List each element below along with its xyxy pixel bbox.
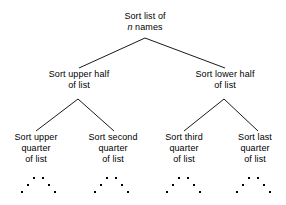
- ellipsis-dot: [121, 184, 123, 186]
- node-second-quarter-line3: of list: [76, 154, 150, 165]
- ellipsis-dot: [257, 177, 259, 179]
- ellipsis-dots-second-quarter: [91, 176, 135, 198]
- ellipsis-dots-last-quarter: [233, 176, 277, 198]
- ellipsis-dot: [178, 177, 180, 179]
- node-upper-half-line2: of list: [33, 80, 125, 91]
- ellipsis-dot: [199, 191, 201, 193]
- node-upper-quarter-line1: Sort upper: [1, 132, 71, 143]
- node-root-line2: n names: [105, 22, 185, 33]
- ellipsis-dot: [263, 184, 265, 186]
- node-third-quarter-line3: of list: [150, 154, 218, 165]
- node-second-quarter: Sort second quarter of list: [76, 132, 150, 165]
- edge-root-to-lower-half: [145, 38, 225, 68]
- ellipsis-dots-third-quarter: [163, 176, 207, 198]
- ellipsis-dot: [100, 184, 102, 186]
- ellipsis-dots-upper-quarter: [18, 176, 62, 198]
- node-third-quarter: Sort third quarter of list: [150, 132, 218, 165]
- node-last-quarter: Sort last quarter of list: [224, 132, 286, 165]
- node-root-line1: Sort list of: [105, 11, 185, 22]
- edge-lower-half-to-last-quarter: [224, 99, 258, 131]
- node-last-quarter-line1: Sort last: [224, 132, 286, 143]
- node-lower-half-line2: of list: [179, 80, 271, 91]
- ellipsis-dot: [187, 177, 189, 179]
- ellipsis-dot: [27, 184, 29, 186]
- edge-lower-half-to-third-quarter: [184, 99, 224, 131]
- ellipsis-dot: [33, 177, 35, 179]
- node-last-quarter-line3: of list: [224, 154, 286, 165]
- node-upper-half: Sort upper half of list: [33, 69, 125, 91]
- sort-decomposition-diagram: Sort list of n names Sort upper half of …: [0, 0, 286, 205]
- ellipsis-dot: [54, 191, 56, 193]
- ellipsis-dot: [242, 184, 244, 186]
- node-second-quarter-line1: Sort second: [76, 132, 150, 143]
- edge-upper-half-to-second-quarter: [78, 99, 114, 131]
- node-last-quarter-line2: quarter: [224, 143, 286, 154]
- node-root: Sort list of n names: [105, 11, 185, 33]
- node-third-quarter-line1: Sort third: [150, 132, 218, 143]
- node-lower-half-line1: Sort lower half: [179, 69, 271, 80]
- ellipsis-dot: [127, 191, 129, 193]
- ellipsis-dot: [115, 177, 117, 179]
- node-upper-quarter: Sort upper quarter of list: [1, 132, 71, 165]
- ellipsis-dot: [172, 184, 174, 186]
- node-upper-half-line1: Sort upper half: [33, 69, 125, 80]
- ellipsis-dot: [269, 191, 271, 193]
- ellipsis-dot: [106, 177, 108, 179]
- ellipsis-dot: [166, 191, 168, 193]
- node-upper-quarter-line2: quarter: [1, 143, 71, 154]
- edge-root-to-upper-half: [79, 38, 145, 68]
- ellipsis-dot: [21, 191, 23, 193]
- ellipsis-dot: [236, 191, 238, 193]
- ellipsis-dot: [48, 184, 50, 186]
- ellipsis-dot: [193, 184, 195, 186]
- node-second-quarter-line2: quarter: [76, 143, 150, 154]
- ellipsis-dot: [248, 177, 250, 179]
- edge-upper-half-to-upper-quarter: [36, 99, 78, 131]
- ellipsis-dot: [94, 191, 96, 193]
- ellipsis-dot: [42, 177, 44, 179]
- node-third-quarter-line2: quarter: [150, 143, 218, 154]
- node-upper-quarter-line3: of list: [1, 154, 71, 165]
- node-root-line2-rest: names: [132, 22, 162, 32]
- node-lower-half: Sort lower half of list: [179, 69, 271, 91]
